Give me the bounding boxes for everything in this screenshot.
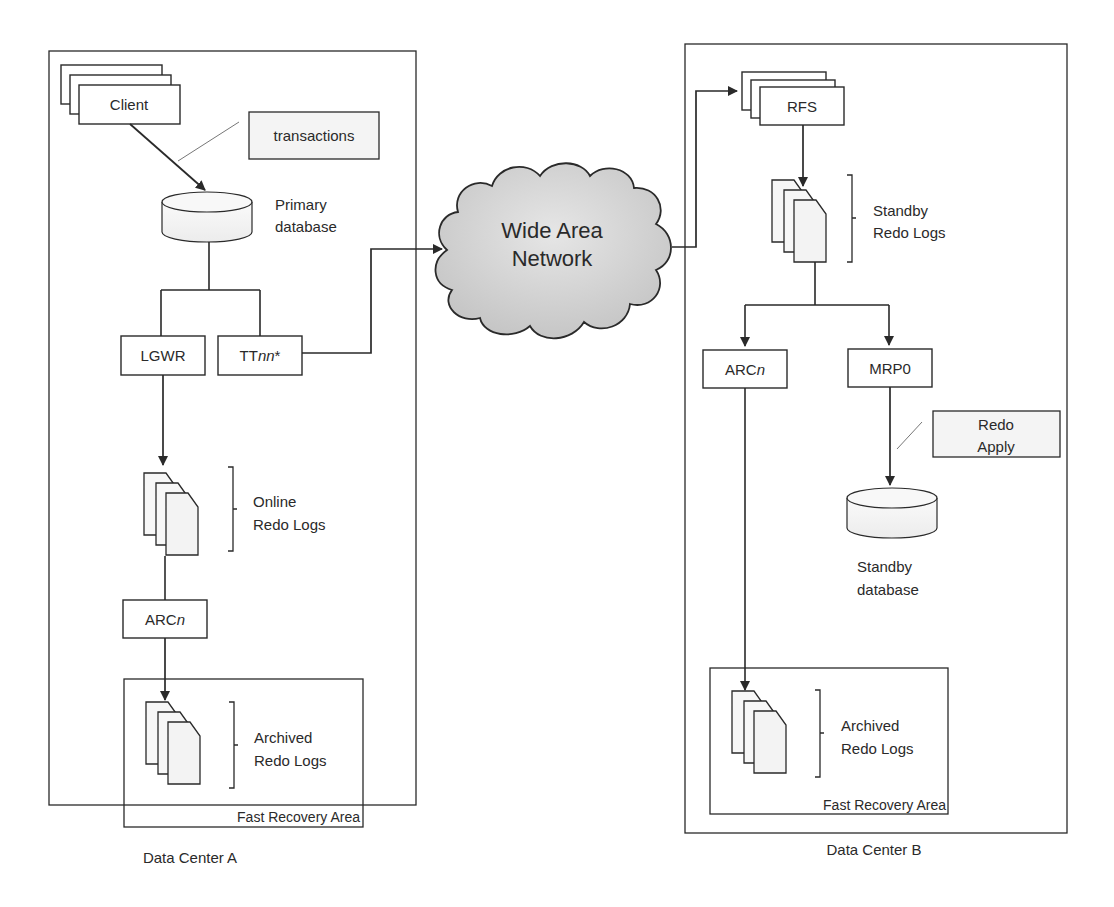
rfs-label: RFS — [787, 98, 817, 115]
transactions-callout-leader — [178, 122, 239, 161]
primary-fork-connector — [161, 242, 260, 336]
primary-db-label-line2: database — [275, 218, 337, 235]
lgwr-box[interactable]: LGWR — [121, 336, 205, 375]
client-to-primary-arrow — [130, 124, 205, 190]
archived-logs-b-line2: Redo Logs — [841, 740, 914, 757]
archived-redo-logs-a-icon — [146, 702, 200, 784]
archived-logs-a-line1: Archived — [254, 729, 312, 746]
wan-label-line2: Network — [512, 246, 594, 271]
standby-logs-bracket — [847, 175, 856, 262]
data-center-a-frame — [49, 51, 416, 805]
redo-apply-line1: Redo — [978, 416, 1014, 433]
arcn-a-label: ARCn — [145, 611, 185, 628]
archived-logs-a-line2: Redo Logs — [254, 752, 327, 769]
standby-db-line2: database — [857, 581, 919, 598]
primary-db-label-line1: Primary — [275, 196, 327, 213]
transactions-label: transactions — [274, 127, 355, 144]
transactions-callout: transactions — [249, 112, 379, 159]
standby-logs-line2: Redo Logs — [873, 224, 946, 241]
standby-fork-connector — [745, 262, 889, 305]
standby-logs-line1: Standby — [873, 202, 929, 219]
online-logs-label-line2: Redo Logs — [253, 516, 326, 533]
wan-label-line1: Wide Area — [501, 218, 603, 243]
ttnn-to-wan-arrow — [302, 249, 442, 353]
rfs-box[interactable]: RFS — [742, 72, 844, 125]
lgwr-label: LGWR — [141, 347, 186, 364]
arcn-box-b[interactable]: ARCn — [703, 350, 787, 388]
data-center-b: RFS Standby Redo Logs ARCn MRP0 Redo App — [685, 44, 1067, 858]
redo-apply-callout: Redo Apply — [933, 411, 1060, 457]
archived-redo-logs-b-icon — [732, 691, 786, 773]
data-center-a: Client transactions Primary database LGW… — [49, 51, 442, 866]
data-center-b-label: Data Center B — [826, 841, 921, 858]
online-redo-logs-icon — [144, 473, 198, 555]
standby-redo-logs-icon — [772, 180, 826, 262]
archived-logs-b-bracket — [815, 690, 824, 777]
client-label: Client — [110, 96, 149, 113]
primary-database-icon — [162, 192, 252, 242]
data-center-a-label: Data Center A — [143, 849, 237, 866]
fra-b-label: Fast Recovery Area — [823, 797, 946, 813]
mrp0-box[interactable]: MRP0 — [848, 349, 932, 387]
standby-database-icon — [847, 488, 937, 538]
mrp0-label: MRP0 — [869, 360, 911, 377]
data-guard-diagram: Client transactions Primary database LGW… — [0, 0, 1114, 907]
arcn-b-label: ARCn — [725, 361, 765, 378]
online-logs-bracket — [228, 467, 237, 551]
wide-area-network-cloud: Wide Area Network — [436, 163, 671, 338]
standby-db-line1: Standby — [857, 558, 913, 575]
online-logs-label-line1: Online — [253, 493, 296, 510]
archived-logs-a-bracket — [229, 702, 238, 788]
wan-to-rfs-arrow — [672, 91, 737, 247]
ttnn-box[interactable]: TTnn* — [218, 336, 302, 375]
redo-apply-callout-leader — [897, 422, 922, 449]
ttnn-label: TTnn* — [240, 347, 281, 364]
arcn-box-a[interactable]: ARCn — [123, 600, 207, 638]
client-box[interactable]: Client — [61, 65, 180, 124]
redo-apply-line2: Apply — [977, 438, 1015, 455]
fra-a-label: Fast Recovery Area — [237, 809, 360, 825]
archived-logs-b-line1: Archived — [841, 717, 899, 734]
